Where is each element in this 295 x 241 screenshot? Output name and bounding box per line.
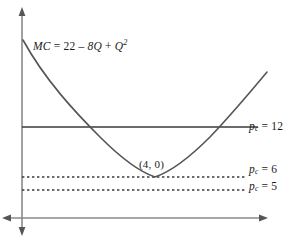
mc-equation-linear: 8Q [88,40,102,52]
mc-equation-plus: + [102,40,115,52]
mc-equation-label: MC = 22 – 8Q + Q2 [33,38,128,52]
mc-equation-prefix: MC [33,40,51,52]
price-5-eq: = [258,180,271,192]
price-6-label: pc = 6 [249,163,277,176]
mc-curve-figure: MC = 22 – 8Q + Q2 (4, 0) pc = 12 pc = 6 … [0,0,295,241]
price-5-value: 5 [271,180,277,192]
price-12-value: 12 [271,120,283,132]
marginal-cost-curve [23,40,267,177]
price-12-eq: = [258,120,271,132]
price-6-value: 6 [271,163,277,175]
minimum-point-label: (4, 0) [139,158,164,170]
mc-equation-eq: = [51,40,64,52]
x-axis-arrow-right-icon [259,215,268,222]
x-axis-arrow-left-icon [2,215,11,222]
mc-equation-exponent: 2 [123,38,127,47]
y-axis-arrow-down-icon [19,227,26,236]
mc-equation-const: 22 [64,40,76,52]
x-axis [2,215,268,222]
price-5-label: pc = 5 [249,180,277,193]
mc-equation-minus: – [75,40,87,52]
price-12-label: pc = 12 [249,120,283,133]
price-6-eq: = [258,163,271,175]
y-axis-arrow-icon [19,7,26,16]
